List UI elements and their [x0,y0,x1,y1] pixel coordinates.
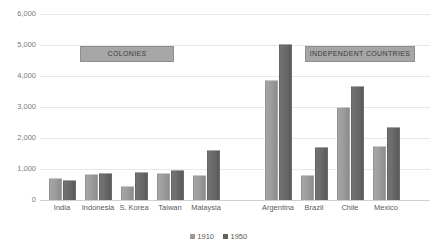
x-axis-tick-label: Argentina [260,202,296,214]
bar-argentina-1910[interactable] [265,80,278,200]
bar-group [44,14,80,200]
y-axis-tick-label: 3,000 [0,103,36,111]
bar-brazil-1950[interactable] [315,147,328,200]
y-axis-tick-label: 5,000 [0,41,36,49]
bar-group [296,14,332,200]
bar-chile-1910[interactable] [337,107,350,200]
legend-item-1910[interactable]: 1910 [190,232,214,241]
bar-groups [40,14,430,200]
legend-swatch-1910-icon [190,234,195,239]
bar-argentina-1950[interactable] [279,44,292,200]
y-axis-tick-label: 6,000 [0,10,36,18]
bar-group [260,14,296,200]
chart-legend: 1910 1950 [0,232,437,241]
bar-malaysia-1910[interactable] [193,175,206,200]
bar-mexico-1910[interactable] [373,146,386,200]
banner-colonies: COLONIES [80,46,174,62]
legend-item-1950[interactable]: 1950 [223,232,247,241]
legend-label-1950: 1950 [231,232,248,241]
bar-taiwan-1950[interactable] [171,170,184,200]
bar-skorea-1950[interactable] [135,172,148,200]
bar-skorea-1910[interactable] [121,186,134,200]
y-axis-tick-label: 1,000 [0,165,36,173]
bar-malaysia-1950[interactable] [207,150,220,200]
x-axis-tick-label: Chile [332,202,368,214]
banner-independent-countries: INDEPENDENT COUNTRIES [305,46,415,62]
bar-group [116,14,152,200]
bar-india-1910[interactable] [49,178,62,200]
legend-swatch-1950-icon [223,234,228,239]
x-axis-tick-label: Indonesia [80,202,116,214]
y-axis-tick-label: 2,000 [0,134,36,142]
bar-group [80,14,116,200]
bar-group [188,14,224,200]
bar-brazil-1910[interactable] [301,175,314,200]
x-axis-tick-label: Malaysia [188,202,224,214]
bar-taiwan-1910[interactable] [157,173,170,200]
plot-area [40,14,430,200]
x-axis-tick-label: Brazil [296,202,332,214]
y-axis-tick-label: 4,000 [0,72,36,80]
bar-indonesia-1950[interactable] [99,173,112,200]
legend-label-1910: 1910 [197,232,214,241]
x-axis-tick-label: India [44,202,80,214]
bar-group [152,14,188,200]
bar-group [332,14,368,200]
bar-indonesia-1910[interactable] [85,174,98,200]
y-axis-tick-label: 0 [0,196,36,204]
x-axis-tick-label: S. Korea [116,202,152,214]
x-axis-tick-label: Mexico [368,202,404,214]
axis-baseline [40,200,430,201]
x-axis: IndiaIndonesiaS. KoreaTaiwanMalaysiaArge… [40,202,430,216]
x-axis-tick-label: Taiwan [152,202,188,214]
bar-chart: 6,0005,0004,0003,0002,0001,0000 IndiaInd… [0,0,437,252]
bar-india-1950[interactable] [63,180,76,200]
y-axis: 6,0005,0004,0003,0002,0001,0000 [0,14,36,200]
bar-chile-1950[interactable] [351,86,364,200]
bar-group [368,14,404,200]
bar-mexico-1950[interactable] [387,127,400,200]
